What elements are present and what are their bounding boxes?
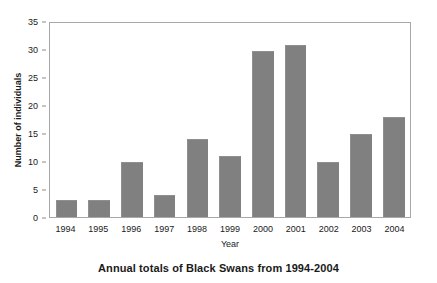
- y-tick-label: 0: [33, 214, 38, 223]
- x-tick-label: 1999: [214, 222, 247, 236]
- y-tick-mark: [42, 22, 46, 23]
- x-axis-title: Year: [49, 238, 411, 250]
- x-tick-label: 2003: [345, 222, 378, 236]
- y-tick-mark: [42, 50, 46, 51]
- bar: [383, 117, 405, 217]
- bar-slot: [246, 23, 279, 217]
- bar-slot: [115, 23, 148, 217]
- chart-caption: Annual totals of Black Swans from 1994-2…: [0, 261, 437, 275]
- plot-area: [49, 22, 411, 218]
- x-tick-label: 2004: [378, 222, 411, 236]
- y-tick-mark: [42, 190, 46, 191]
- x-tick-label: 2002: [312, 222, 345, 236]
- bar: [285, 45, 307, 217]
- x-tick-label: 2001: [279, 222, 312, 236]
- y-tick-label: 35: [28, 18, 38, 27]
- x-tick-label: 1998: [181, 222, 214, 236]
- bar: [154, 195, 176, 217]
- y-tick-label: 30: [28, 46, 38, 55]
- y-tick-label: 10: [28, 158, 38, 167]
- y-axis-tick-labels: 05101520253035: [0, 22, 46, 218]
- bar-slot: [50, 23, 83, 217]
- y-tick-mark: [42, 162, 46, 163]
- bar: [56, 200, 78, 217]
- y-tick-mark: [42, 78, 46, 79]
- bar-slot: [148, 23, 181, 217]
- bar-slot: [312, 23, 345, 217]
- bar: [252, 51, 274, 217]
- x-axis-tick-labels: 1994199519961997199819992000200120022003…: [49, 222, 411, 236]
- y-tick-label: 20: [28, 102, 38, 111]
- x-tick-label: 1997: [148, 222, 181, 236]
- bar: [317, 162, 339, 217]
- y-tick-mark: [42, 218, 46, 219]
- bar-slot: [345, 23, 378, 217]
- x-tick-label: 2000: [246, 222, 279, 236]
- bar-slot: [83, 23, 116, 217]
- bar-slot: [181, 23, 214, 217]
- bar: [88, 200, 110, 217]
- x-tick-label: 1995: [82, 222, 115, 236]
- x-tick-label: 1996: [115, 222, 148, 236]
- y-tick-mark: [42, 134, 46, 135]
- y-tick-mark: [42, 106, 46, 107]
- bar: [121, 162, 143, 217]
- y-tick-label: 5: [33, 186, 38, 195]
- bar: [187, 139, 209, 217]
- bar-chart-figure: Number of individuals 05101520253035 199…: [0, 0, 437, 283]
- bar: [219, 156, 241, 217]
- bar-slot: [377, 23, 410, 217]
- y-tick-label: 15: [28, 130, 38, 139]
- bar-slot: [279, 23, 312, 217]
- x-tick-label: 1994: [49, 222, 82, 236]
- bar: [350, 134, 372, 217]
- y-tick-label: 25: [28, 74, 38, 83]
- bar-slot: [214, 23, 247, 217]
- bar-series: [50, 23, 410, 217]
